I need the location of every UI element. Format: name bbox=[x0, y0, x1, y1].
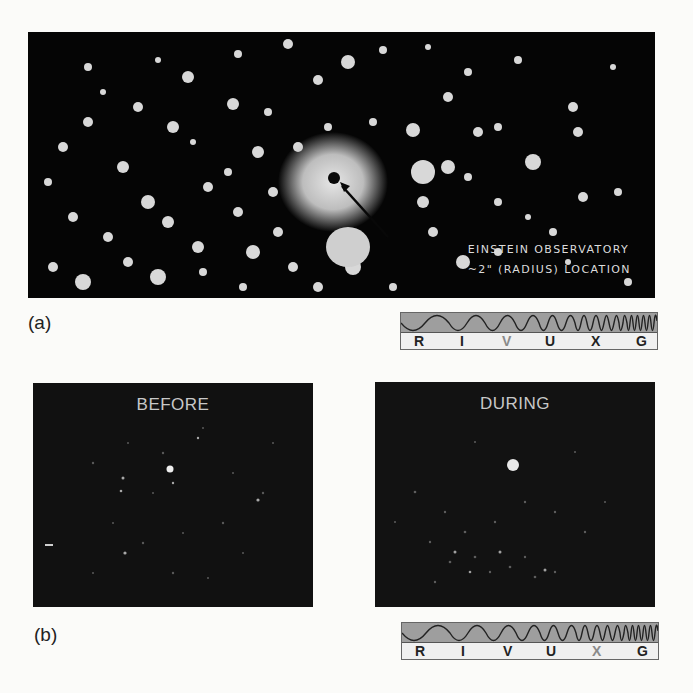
band-letter-i: I bbox=[460, 333, 464, 349]
before-star-field bbox=[33, 383, 313, 607]
band-letter-i: I bbox=[461, 643, 465, 659]
wave-graphic bbox=[401, 313, 657, 333]
wave-graphic bbox=[402, 623, 658, 643]
wavelength-band-indicator-b: R I V U X G bbox=[401, 622, 659, 660]
band-letter-g: G bbox=[636, 333, 647, 349]
source-point-before bbox=[167, 466, 174, 473]
band-letter-v-highlighted: V bbox=[502, 333, 511, 349]
band-letters: R I V U X G bbox=[402, 643, 658, 659]
band-letter-r: R bbox=[414, 333, 424, 349]
during-xray-image: DURING bbox=[375, 382, 655, 607]
source-point-during bbox=[507, 459, 519, 471]
during-title: DURING bbox=[375, 394, 655, 414]
band-letter-g: G bbox=[637, 643, 648, 659]
during-star-field bbox=[375, 382, 655, 607]
before-title: BEFORE bbox=[33, 395, 313, 415]
band-letter-u: U bbox=[545, 333, 555, 349]
band-letter-v: V bbox=[503, 643, 512, 659]
before-xray-image: BEFORE bbox=[33, 383, 313, 607]
band-letters: R I V U X G bbox=[401, 333, 657, 349]
observatory-annotation: EINSTEIN OBSERVATORY ~2" (RADIUS) LOCATI… bbox=[468, 240, 631, 280]
band-letter-x: X bbox=[591, 333, 600, 349]
annotation-line-2: ~2" (RADIUS) LOCATION bbox=[468, 260, 631, 280]
band-letter-r: R bbox=[415, 643, 425, 659]
figure-label-b: (b) bbox=[34, 624, 57, 646]
wavelength-band-indicator-a: R I V U X G bbox=[400, 312, 658, 350]
cluster-optical-image: EINSTEIN OBSERVATORY ~2" (RADIUS) LOCATI… bbox=[28, 32, 655, 298]
figure-label-a: (a) bbox=[28, 312, 51, 334]
xray-source-marker bbox=[328, 172, 340, 184]
band-letter-u: U bbox=[546, 643, 556, 659]
annotation-line-1: EINSTEIN OBSERVATORY bbox=[468, 240, 631, 260]
band-letter-x-highlighted: X bbox=[592, 643, 601, 659]
